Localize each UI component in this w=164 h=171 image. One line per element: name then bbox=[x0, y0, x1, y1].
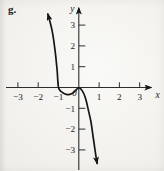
x-tick-label: −2 bbox=[33, 92, 43, 102]
x-tick-label: 3 bbox=[137, 92, 142, 102]
x-tick-label: −3 bbox=[13, 92, 23, 102]
x-axis-label: x bbox=[155, 90, 161, 100]
x-tick-label: 1 bbox=[97, 92, 102, 102]
y-tick-label: −2 bbox=[65, 124, 75, 134]
figure-g: g. −3−2−1123321−1−2−3xy0 bbox=[0, 0, 164, 171]
y-tick-label: 3 bbox=[70, 20, 75, 30]
y-tick-label: 2 bbox=[70, 41, 75, 51]
y-tick-label: 1 bbox=[70, 62, 75, 72]
y-tick-label: −1 bbox=[65, 104, 75, 114]
x-tick-label: 2 bbox=[117, 92, 122, 102]
plot-canvas: −3−2−1123321−1−2−3xy0 bbox=[0, 0, 164, 171]
y-tick-label: −3 bbox=[65, 145, 75, 155]
y-axis-label: y bbox=[69, 4, 75, 14]
